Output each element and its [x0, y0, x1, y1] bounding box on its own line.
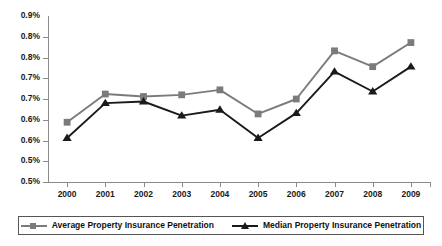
x-axis-label: 2006	[276, 190, 316, 199]
x-axis-tick	[67, 182, 68, 187]
data-point-square	[331, 47, 338, 54]
x-axis-label: 2007	[315, 190, 355, 199]
data-point-square	[369, 63, 376, 70]
y-axis-label: 0.8%	[6, 32, 40, 41]
data-point-triangle	[139, 97, 148, 104]
y-axis-tick	[43, 182, 48, 183]
data-point-triangle	[215, 105, 224, 112]
x-axis-tick	[296, 182, 297, 187]
x-axis-tick	[335, 182, 336, 187]
data-point-square	[255, 111, 262, 118]
x-axis-tick	[220, 182, 221, 187]
y-axis-tick	[43, 99, 48, 100]
data-point-square	[140, 93, 147, 100]
data-point-triangle	[254, 134, 263, 141]
y-axis-label: 0.6%	[6, 115, 40, 124]
data-point-triangle	[368, 87, 377, 94]
chart-legend: Average Property Insurance PenetrationMe…	[18, 216, 424, 235]
data-point-triangle	[177, 111, 186, 118]
data-point-square	[102, 91, 109, 98]
y-axis-label: 0.7%	[6, 94, 40, 103]
x-axis-tick	[258, 182, 259, 187]
y-axis-line	[48, 16, 49, 183]
y-axis-label: 0.8%	[6, 53, 40, 62]
y-axis-label: 0.7%	[6, 73, 40, 82]
legend-label: Median Property Insurance Penetration	[263, 221, 421, 230]
x-axis-tick	[105, 182, 106, 187]
y-axis-tick	[43, 161, 48, 162]
legend-entry: Median Property Insurance Penetration	[223, 221, 430, 230]
chart-container: 0.9%0.8%0.8%0.7%0.7%0.6%0.6%0.5%0.5% 200…	[0, 0, 442, 246]
data-point-square	[178, 91, 185, 98]
data-point-triangle	[101, 99, 110, 106]
data-point-square	[293, 96, 300, 103]
y-axis-tick	[43, 37, 48, 38]
x-axis-tick	[411, 182, 412, 187]
x-axis-label: 2008	[353, 190, 393, 199]
series-line	[67, 67, 411, 138]
x-axis-label: 2004	[200, 190, 240, 199]
y-axis-tick	[43, 58, 48, 59]
x-axis-label: 2001	[85, 190, 125, 199]
y-axis-label: 0.5%	[6, 156, 40, 165]
data-point-triangle	[406, 62, 415, 69]
y-axis-tick	[43, 120, 48, 121]
data-point-triangle	[63, 134, 72, 141]
data-point-square	[408, 39, 415, 46]
data-point-triangle	[330, 67, 339, 74]
x-axis-label: 2002	[124, 190, 164, 199]
y-axis-label: 0.5%	[6, 177, 40, 186]
x-axis-label: 2000	[47, 190, 87, 199]
data-point-square	[64, 119, 71, 126]
y-axis-label: 0.6%	[6, 136, 40, 145]
series-line	[67, 43, 411, 123]
y-axis-tick	[43, 141, 48, 142]
data-point-triangle	[292, 109, 301, 116]
legend-square-icon	[21, 221, 47, 230]
data-point-square	[217, 86, 224, 93]
series-plot	[0, 0, 442, 246]
legend-triangle-icon	[232, 221, 258, 230]
x-axis-label: 2005	[238, 190, 278, 199]
y-axis-label: 0.9%	[6, 11, 40, 20]
x-axis-tick	[373, 182, 374, 187]
x-axis-label: 2009	[391, 190, 431, 199]
legend-label: Average Property Insurance Penetration	[52, 221, 214, 230]
x-axis-tick	[182, 182, 183, 187]
x-axis-tick-end	[430, 182, 431, 187]
y-axis-tick	[43, 78, 48, 79]
x-axis-label: 2003	[162, 190, 202, 199]
x-axis-tick	[144, 182, 145, 187]
legend-entry: Average Property Insurance Penetration	[12, 221, 223, 230]
